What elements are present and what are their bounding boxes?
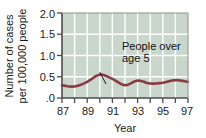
annotation-label-line1: People over: [122, 40, 181, 52]
annotation-label-line2: age 5: [122, 52, 150, 64]
y-tick-label-1-5: 1.5: [40, 28, 55, 40]
y-tick-label-0-5: 0.5: [40, 71, 55, 83]
x-axis-title: Year: [114, 122, 137, 134]
y-axis-title-line1: Number of cases: [3, 14, 15, 98]
x-tick-label-91: 91: [107, 105, 119, 117]
x-tick-label-97: 97: [181, 105, 193, 117]
chart-figure: People over age 5: [0, 0, 206, 138]
y-axis-title-line2: per 100,000 people: [16, 9, 28, 104]
y-tick-label-1-0: 1.0: [40, 50, 55, 62]
x-tick-label-95: 95: [157, 105, 169, 117]
line-chart: People over age 5: [0, 0, 206, 138]
x-tick-label-87: 87: [57, 105, 69, 117]
x-tick-label-89: 89: [82, 105, 94, 117]
x-tick-label-93: 93: [132, 105, 144, 117]
y-tick-label-2-0: 2.0: [40, 8, 55, 20]
y-tick-label-0: .0: [46, 92, 55, 104]
